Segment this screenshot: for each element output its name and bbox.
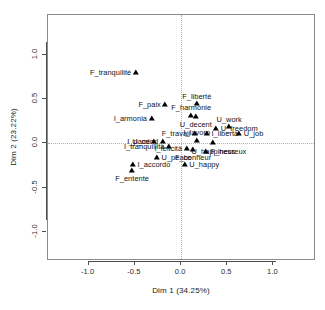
data-point-label: U_happy (189, 162, 219, 169)
data-point-label: F_entente (115, 175, 149, 182)
data-point-marker (236, 131, 242, 136)
x-tick-label: 1.0 (267, 267, 278, 276)
x-tick-label: -1.0 (81, 267, 94, 276)
x-tick (272, 261, 273, 265)
x-tick-label: -0.5 (127, 267, 140, 276)
y-tick-label: 0.5 (30, 93, 39, 104)
x-axis-title: Dim 1 (34.25%) (152, 286, 210, 295)
y-tick (42, 142, 46, 143)
data-point-marker (190, 146, 196, 151)
x-tick-label: 0.5 (221, 267, 232, 276)
y-tick-label: 0.0 (30, 137, 39, 148)
data-point-marker (203, 149, 209, 154)
y-tick-label: 1.0 (30, 48, 39, 59)
x-tick-label: 0.0 (175, 267, 186, 276)
data-point-marker (162, 102, 168, 107)
data-point-label: F_paix (138, 102, 160, 109)
data-point-marker (133, 69, 139, 74)
data-point-label: F_tranquilité (90, 69, 131, 76)
data-point-label: I_accordo (138, 162, 171, 169)
data-point-marker (182, 162, 188, 167)
y-tick-label: -0.5 (30, 180, 39, 193)
data-point-marker (154, 155, 160, 160)
data-point-label: U_job (244, 131, 264, 138)
data-point-marker (148, 116, 154, 121)
data-point-label: U_work (216, 115, 241, 122)
data-point-marker (183, 145, 189, 150)
plot-panel: F_tranquilitéF_paixF_libertéF_harmonieI_… (47, 14, 315, 260)
data-point-label: I_lavoro (183, 129, 210, 136)
data-point-label: I_felicità (154, 145, 182, 152)
y-tick (42, 98, 46, 99)
x-tick (88, 261, 89, 265)
y-tick (42, 187, 46, 188)
data-point-marker (130, 162, 136, 167)
x-tick (180, 261, 181, 265)
y-axis-line (46, 42, 47, 220)
data-point-marker (210, 140, 216, 145)
data-point-marker (129, 167, 135, 172)
scatter-plot-figure: F_tranquilitéF_paixF_libertéF_harmonieI_… (0, 0, 325, 310)
x-tick (134, 261, 135, 265)
data-point-label: I_libertà (211, 130, 238, 137)
y-axis-title: Dim 2 (23.22%) (9, 108, 18, 166)
y-tick (42, 231, 46, 232)
data-point-marker (193, 113, 199, 118)
data-point-label: F_heureux (211, 148, 247, 155)
x-tick (226, 261, 227, 265)
data-point-label: I_armonia (114, 116, 147, 123)
data-point-label: F_liberté (182, 92, 211, 99)
data-point-label: F_harmonie (171, 104, 211, 111)
y-tick-label: -1.0 (30, 224, 39, 237)
x-axis-line (89, 261, 276, 262)
y-tick (42, 54, 46, 55)
data-point-marker (194, 137, 200, 142)
